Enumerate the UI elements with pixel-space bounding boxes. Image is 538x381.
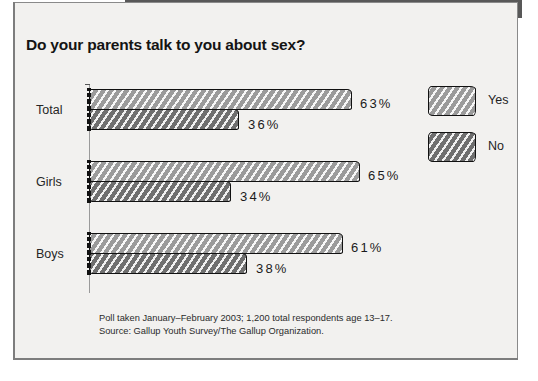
bar-total-no[interactable]	[89, 109, 239, 130]
footnote-line-poll: Poll taken January–February 2003; 1,200 …	[99, 312, 393, 325]
bar-total-yes[interactable]	[89, 89, 352, 110]
legend-swatch-no	[428, 132, 476, 162]
category-label-total: Total	[36, 103, 62, 117]
bar-boys-yes[interactable]	[89, 233, 343, 254]
chart-footnote: Poll taken January–February 2003; 1,200 …	[99, 312, 393, 337]
footnote-line-source: Source: Gallup Youth Survey/The Gallup O…	[99, 325, 393, 338]
legend-label-yes: Yes	[488, 93, 508, 107]
bar-value-total-no: 36%	[248, 117, 281, 132]
axis-tick-mark	[85, 84, 90, 85]
category-label-girls: Girls	[36, 175, 62, 189]
figure-page: Do your parents talk to you about sex? T…	[0, 0, 538, 381]
legend-label-no: No	[488, 139, 504, 153]
bar-value-boys-no: 38%	[256, 261, 289, 276]
bar-value-boys-yes: 61%	[351, 240, 384, 255]
bar-value-total-yes: 63%	[360, 96, 393, 111]
bar-girls-no[interactable]	[89, 181, 231, 202]
bar-girls-yes[interactable]	[89, 161, 360, 182]
bar-value-girls-no: 34%	[240, 189, 273, 204]
bar-boys-no[interactable]	[89, 253, 247, 274]
legend-swatch-yes	[428, 86, 476, 116]
bar-value-girls-yes: 65%	[368, 168, 401, 183]
category-label-boys: Boys	[36, 247, 64, 261]
